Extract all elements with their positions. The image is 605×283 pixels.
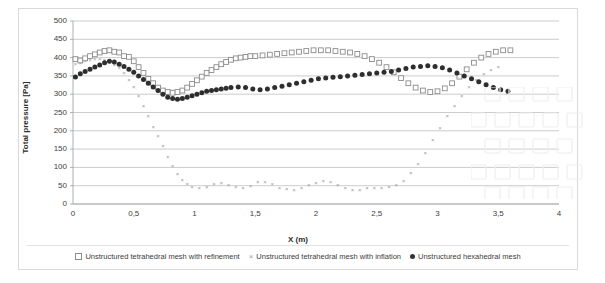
svg-text:×: × bbox=[98, 56, 102, 62]
chart-container: ××××××××××××××××××××××××××××××××××××××××… bbox=[18, 8, 578, 270]
legend-item[interactable]: Unstructured tetrahedral mesh with refin… bbox=[75, 252, 239, 261]
x-tick-label: 2 bbox=[301, 209, 331, 218]
svg-text:×: × bbox=[431, 137, 435, 143]
svg-text:×: × bbox=[307, 182, 311, 188]
legend-divider bbox=[27, 245, 569, 246]
svg-text:×: × bbox=[93, 56, 97, 62]
y-tick-label: 150 bbox=[37, 144, 67, 153]
y-tick-label: 400 bbox=[37, 53, 67, 62]
x-tick-label: 2,5 bbox=[362, 209, 392, 218]
y-tick-label: 350 bbox=[37, 71, 67, 80]
svg-text:×: × bbox=[227, 182, 231, 188]
svg-text:×: × bbox=[409, 170, 413, 176]
svg-text:×: × bbox=[351, 187, 355, 193]
svg-text:×: × bbox=[292, 187, 296, 193]
x-tick-label: 3 bbox=[423, 209, 453, 218]
svg-text:×: × bbox=[402, 178, 406, 184]
svg-text:×: × bbox=[219, 180, 223, 186]
svg-text:×: × bbox=[88, 57, 92, 63]
x-tick-label: 0,5 bbox=[119, 209, 149, 218]
svg-text:×: × bbox=[416, 161, 420, 167]
svg-text:×: × bbox=[190, 184, 194, 190]
svg-text:×: × bbox=[460, 93, 464, 99]
svg-text:×: × bbox=[278, 185, 282, 191]
svg-text:×: × bbox=[445, 113, 449, 119]
svg-text:×: × bbox=[271, 181, 275, 187]
legend-label: Unstructured tetrahedral mesh with infla… bbox=[256, 252, 401, 261]
svg-text:×: × bbox=[137, 93, 141, 99]
legend-label: Unstructured tetrahedral mesh with refin… bbox=[85, 252, 239, 261]
svg-text:×: × bbox=[373, 185, 377, 191]
svg-text:×: × bbox=[387, 184, 391, 190]
y-tick-label: 100 bbox=[37, 162, 67, 171]
svg-text:×: × bbox=[489, 67, 493, 73]
x-tick-label: 4 bbox=[544, 209, 574, 218]
svg-text:×: × bbox=[79, 60, 83, 66]
svg-text:×: × bbox=[453, 103, 457, 109]
svg-text:×: × bbox=[83, 58, 87, 64]
svg-text:×: × bbox=[496, 64, 500, 70]
svg-text:×: × bbox=[234, 184, 238, 190]
svg-text:×: × bbox=[205, 184, 209, 190]
svg-text:×: × bbox=[127, 77, 131, 83]
y-tick-label: 500 bbox=[37, 16, 67, 25]
x-tick-label: 1 bbox=[180, 209, 210, 218]
svg-text:×: × bbox=[176, 171, 180, 177]
svg-text:×: × bbox=[181, 177, 185, 183]
legend-marker-open-square bbox=[75, 253, 82, 260]
svg-text:×: × bbox=[185, 181, 189, 187]
svg-text:×: × bbox=[122, 70, 126, 76]
svg-text:×: × bbox=[249, 183, 253, 189]
svg-text:×: × bbox=[166, 154, 170, 160]
chart-legend: Unstructured tetrahedral mesh with refin… bbox=[19, 252, 577, 261]
svg-text:×: × bbox=[424, 150, 428, 156]
svg-text:×: × bbox=[438, 125, 442, 131]
y-axis-title: Total pressure [Pa] bbox=[21, 28, 30, 208]
svg-text:×: × bbox=[241, 185, 245, 191]
svg-text:×: × bbox=[329, 179, 333, 185]
svg-text:×: × bbox=[300, 185, 304, 191]
svg-text:×: × bbox=[365, 185, 369, 191]
svg-text:×: × bbox=[394, 182, 398, 188]
y-tick-label: 50 bbox=[37, 181, 67, 190]
legend-marker-x: × bbox=[249, 253, 254, 261]
svg-text:×: × bbox=[198, 185, 202, 191]
svg-text:×: × bbox=[212, 181, 216, 187]
y-tick-label: 0 bbox=[37, 199, 67, 208]
svg-text:×: × bbox=[482, 71, 486, 77]
legend-item[interactable]: ×Unstructured tetrahedral mesh with infl… bbox=[249, 252, 401, 261]
svg-text:×: × bbox=[336, 182, 340, 188]
svg-text:×: × bbox=[322, 178, 326, 184]
x-tick-label: 0 bbox=[58, 209, 88, 218]
svg-text:×: × bbox=[147, 113, 151, 119]
svg-text:×: × bbox=[263, 179, 267, 185]
svg-text:×: × bbox=[142, 103, 146, 109]
x-tick-label: 3,5 bbox=[483, 209, 513, 218]
y-tick-label: 200 bbox=[37, 126, 67, 135]
svg-text:×: × bbox=[171, 163, 175, 169]
svg-text:×: × bbox=[467, 84, 471, 90]
legend-marker-filled-circle bbox=[410, 254, 415, 259]
x-axis-title: X (m) bbox=[19, 235, 577, 244]
x-tick-label: 1,5 bbox=[240, 209, 270, 218]
svg-text:×: × bbox=[256, 179, 260, 185]
svg-text:×: × bbox=[285, 186, 289, 192]
legend-item[interactable]: Unstructured hexahedral mesh bbox=[410, 252, 521, 261]
svg-text:×: × bbox=[74, 61, 78, 67]
svg-text:×: × bbox=[314, 180, 318, 186]
svg-text:×: × bbox=[358, 187, 362, 193]
svg-text:×: × bbox=[380, 185, 384, 191]
y-tick-label: 250 bbox=[37, 108, 67, 117]
svg-text:×: × bbox=[343, 185, 347, 191]
chart-svg: ××××××××××××××××××××××××××××××××××××××××… bbox=[19, 9, 577, 269]
legend-label: Unstructured hexahedral mesh bbox=[418, 252, 521, 261]
y-tick-label: 450 bbox=[37, 34, 67, 43]
plot-area: ××××××××××××××××××××××××××××××××××××××××… bbox=[19, 9, 577, 269]
svg-text:×: × bbox=[151, 124, 155, 130]
series-tetrahedral-refinement bbox=[73, 48, 513, 95]
y-tick-label: 300 bbox=[37, 89, 67, 98]
svg-text:×: × bbox=[161, 143, 165, 149]
svg-text:×: × bbox=[156, 133, 160, 139]
svg-text:×: × bbox=[132, 84, 136, 90]
